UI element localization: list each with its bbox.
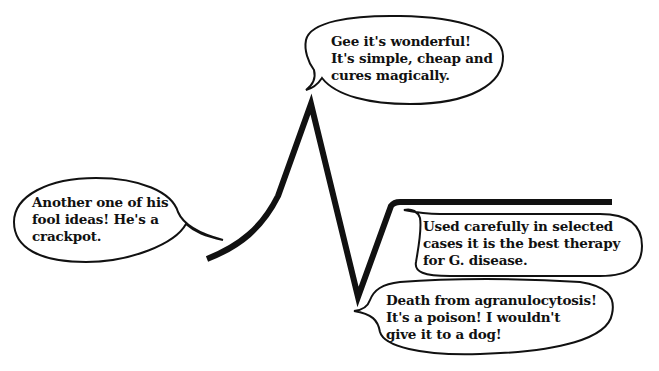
condemnation-line-2: It's a poison! I wouldn't [386,309,597,326]
skeptic-line-1: Another one of his [32,194,168,211]
acceptance-line-3: for G. disease. [423,252,620,269]
skeptic-line-3: crackpot. [32,228,168,245]
skeptic-line-2: fool ideas! He's a [32,211,168,228]
bubble-text-acceptance: Used carefully in selected cases it is t… [423,218,620,269]
condemnation-line-3: give it to a dog! [386,326,597,343]
acceptance-line-2: cases it is the best therapy [423,235,620,252]
enthusiast-line-2: It's simple, cheap and [331,50,493,67]
bubble-text-enthusiast: Gee it's wonderful! It's simple, cheap a… [331,33,493,84]
bubble-text-skeptic: Another one of his fool ideas! He's a cr… [32,194,168,245]
diagram-canvas: Another one of his fool ideas! He's a cr… [0,0,659,371]
condemnation-line-1: Death from agranulocytosis! [386,292,597,309]
enthusiast-line-1: Gee it's wonderful! [331,33,493,50]
enthusiast-line-3: cures magically. [331,67,493,84]
acceptance-line-1: Used carefully in selected [423,218,620,235]
bubble-text-condemnation: Death from agranulocytosis! It's a poiso… [386,292,597,343]
